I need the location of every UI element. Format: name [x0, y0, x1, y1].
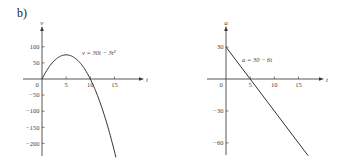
x-axis-arrow-icon: [139, 77, 144, 81]
x-tick-label: 15: [111, 81, 118, 88]
y-tick-label: 50: [33, 59, 40, 66]
y-tick-label: −150: [26, 124, 39, 131]
y-tick-label: −60: [213, 139, 223, 146]
x-tick-label: 5: [65, 81, 68, 88]
origin-label: 0: [35, 81, 38, 88]
y-axis-label: v: [40, 19, 44, 27]
x-axis-arrow-icon: [319, 77, 324, 81]
y-tick-label: −50: [29, 91, 39, 98]
charts-svg: tv05101510050−50−100−150−200v = 30t − 3t…: [0, 0, 348, 164]
x-tick-label: 10: [271, 81, 278, 88]
origin-label: 0: [219, 81, 222, 88]
equation-label: v = 30t − 3t²: [82, 49, 117, 56]
y-axis-label: a: [224, 19, 228, 27]
x-axis-label: t: [326, 76, 329, 84]
data-curve: [42, 55, 116, 157]
acceleration-chart: ta05101530−30−60a = 30 − 6t: [207, 19, 329, 156]
x-tick-label: 5: [249, 81, 252, 88]
equation-label: a = 30 − 6t: [242, 56, 272, 63]
x-tick-label: 15: [295, 81, 302, 88]
y-tick-label: 30: [217, 43, 224, 50]
y-tick-label: 100: [30, 43, 40, 50]
x-axis-label: t: [146, 76, 149, 84]
velocity-chart: tv05101510050−50−100−150−200v = 30t − 3t…: [23, 19, 149, 157]
y-tick-label: −30: [213, 107, 223, 114]
y-tick-label: −100: [26, 107, 39, 114]
data-curve: [226, 47, 308, 156]
y-tick-label: −200: [26, 140, 39, 147]
